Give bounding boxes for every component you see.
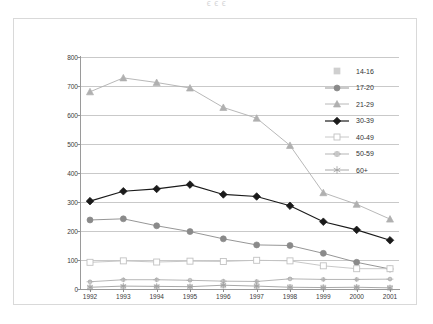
x-axis-tick-label: 1998 <box>275 293 305 300</box>
legend-item-21-29[interactable]: 21-29 <box>324 96 410 113</box>
x-axis-tick-mark <box>90 289 91 292</box>
legend: 14-1617-2021-2930-3940-4950-5960+ <box>324 63 410 179</box>
x-axis-tick-label: 1999 <box>308 293 338 300</box>
x-axis-tick-label: 1992 <box>75 293 105 300</box>
legend-marker-icon-21-29 <box>324 97 350 111</box>
x-axis-tick-mark <box>357 289 358 292</box>
y-axis-tick-label: 0 <box>52 286 78 293</box>
legend-item-60+[interactable]: 60+ <box>324 162 410 179</box>
y-axis-tick-label: 700 <box>52 83 78 90</box>
legend-item-50-59[interactable]: 50-59 <box>324 146 410 163</box>
legend-item-30-39[interactable]: 30-39 <box>324 113 410 130</box>
legend-label-30-39: 30-39 <box>356 117 374 124</box>
legend-marker-icon-60+ <box>324 163 350 177</box>
y-axis-tick-mark <box>77 144 80 145</box>
y-axis-tick-mark <box>77 231 80 232</box>
y-axis-tick-label: 400 <box>52 170 78 177</box>
legend-label-21-29: 21-29 <box>356 101 374 108</box>
y-axis-tick-mark <box>77 289 80 290</box>
legend-label-50-59: 50-59 <box>356 150 374 157</box>
x-axis-tick-mark <box>323 289 324 292</box>
y-axis-line <box>80 56 81 290</box>
legend-label-60+: 60+ <box>356 167 368 174</box>
x-axis-tick-mark <box>123 289 124 292</box>
y-axis-tick-mark <box>77 57 80 58</box>
chart-screenshot: ϵ ϵ ϵ 0100200300400500600700800 19921993… <box>0 0 433 324</box>
x-axis-tick-mark <box>257 289 258 292</box>
legend-label-17-20: 17-20 <box>356 84 374 91</box>
series-17-20 <box>87 216 393 272</box>
series-50-59 <box>87 276 394 284</box>
y-axis-tick-label: 800 <box>52 54 78 61</box>
legend-marker-icon-50-59 <box>324 147 350 161</box>
cropped-title-remnant: ϵ ϵ ϵ <box>0 0 433 7</box>
legend-label-14-16: 14-16 <box>356 68 374 75</box>
legend-label-40-49: 40-49 <box>356 134 374 141</box>
y-axis-tick-mark <box>77 86 80 87</box>
x-axis-tick-mark <box>223 289 224 292</box>
x-axis-tick-label: 1996 <box>208 293 238 300</box>
x-axis-tick-mark <box>190 289 191 292</box>
x-axis-tick-mark <box>290 289 291 292</box>
chart-card: 0100200300400500600700800 19921993199419… <box>13 18 417 305</box>
series-30-39 <box>86 181 394 244</box>
x-axis-tick-label: 1994 <box>142 293 172 300</box>
legend-marker-icon-40-49 <box>324 130 350 144</box>
x-axis-tick-label: 1997 <box>242 293 272 300</box>
y-axis-tick-label: 600 <box>52 112 78 119</box>
x-axis-tick-mark <box>157 289 158 292</box>
x-axis-tick-label: 1993 <box>108 293 138 300</box>
legend-item-40-49[interactable]: 40-49 <box>324 129 410 146</box>
y-axis-tick-label: 500 <box>52 141 78 148</box>
x-axis-tick-label: 1995 <box>175 293 205 300</box>
y-axis-tick-mark <box>77 260 80 261</box>
legend-marker-icon-30-39 <box>324 114 350 128</box>
legend-item-17-20[interactable]: 17-20 <box>324 80 410 97</box>
x-axis-tick-label: 2001 <box>375 293 405 300</box>
y-axis-tick-label: 200 <box>52 228 78 235</box>
x-axis-tick-label: 2000 <box>342 293 372 300</box>
y-axis-tick-label: 100 <box>52 257 78 264</box>
x-axis-line <box>80 289 400 290</box>
legend-marker-icon-17-20 <box>324 81 350 95</box>
legend-item-14-16[interactable]: 14-16 <box>324 63 410 80</box>
x-axis-tick-mark <box>390 289 391 292</box>
legend-marker-icon-14-16 <box>324 64 350 78</box>
y-axis-tick-label: 300 <box>52 199 78 206</box>
y-axis-tick-mark <box>77 115 80 116</box>
y-axis-tick-mark <box>77 173 80 174</box>
y-axis-tick-mark <box>77 202 80 203</box>
